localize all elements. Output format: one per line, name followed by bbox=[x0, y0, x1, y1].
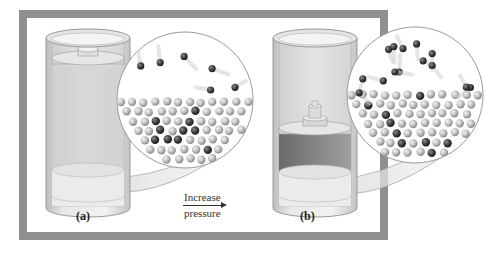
solvent-molecule bbox=[392, 91, 400, 99]
solvent-molecule bbox=[474, 91, 482, 99]
liquid-surface bbox=[279, 165, 351, 179]
solvent-molecule bbox=[151, 97, 159, 105]
solvent-molecule bbox=[421, 100, 429, 108]
solvent-molecule bbox=[439, 129, 447, 137]
solvent-molecule bbox=[403, 148, 411, 156]
cylinder-opening bbox=[279, 33, 351, 45]
solvent-molecule bbox=[237, 126, 245, 134]
solvent-molecule bbox=[134, 107, 142, 115]
solvent-molecule bbox=[139, 99, 147, 107]
gas-region bbox=[52, 66, 124, 170]
solvent-molecule bbox=[421, 119, 429, 127]
gas-molecule bbox=[420, 57, 427, 64]
weight-handle bbox=[312, 101, 318, 106]
solvent-molecule bbox=[221, 136, 229, 144]
solvent-molecule bbox=[370, 110, 378, 118]
solvent-molecule bbox=[381, 128, 389, 136]
dissolved-gas-molecule bbox=[191, 126, 199, 134]
solvent-molecule bbox=[432, 101, 440, 109]
solvent-molecule bbox=[438, 90, 446, 98]
solvent-molecule bbox=[409, 120, 417, 128]
solvent-molecule bbox=[163, 97, 171, 105]
solvent-molecule bbox=[162, 117, 170, 125]
solvent-molecule bbox=[192, 145, 200, 153]
solvent-molecule bbox=[215, 107, 223, 115]
solvent-molecule bbox=[220, 98, 228, 106]
increase-pressure-arrow-line bbox=[183, 205, 223, 206]
solvent-molecule bbox=[369, 129, 377, 137]
solvent-molecule bbox=[444, 101, 452, 109]
solvent-molecule bbox=[186, 98, 194, 106]
solvent-molecule bbox=[369, 90, 377, 98]
dissolved-gas-molecule bbox=[152, 117, 160, 125]
gas-molecule bbox=[137, 62, 144, 69]
gas-molecule bbox=[359, 75, 366, 82]
solvent-molecule bbox=[221, 117, 229, 125]
solvent-molecule bbox=[405, 110, 413, 118]
solvent-molecule bbox=[451, 128, 459, 136]
solvent-molecule bbox=[197, 137, 205, 145]
solvent-molecule bbox=[180, 145, 188, 153]
arrow-bottom-label: pressure bbox=[184, 207, 221, 219]
solvent-molecule bbox=[162, 155, 170, 163]
dissolved-gas-molecule bbox=[204, 146, 212, 154]
gas-molecule bbox=[380, 77, 387, 84]
solvent-molecule bbox=[347, 91, 355, 99]
panel-a-label: (a) bbox=[76, 209, 90, 224]
solvent-molecule bbox=[433, 119, 441, 127]
gas-molecule bbox=[207, 86, 214, 93]
solvent-molecule bbox=[141, 118, 149, 126]
panel-b-label: (b) bbox=[300, 209, 315, 224]
solvent-molecule bbox=[467, 120, 475, 128]
solvent-molecule bbox=[231, 117, 239, 125]
solvent-molecule bbox=[197, 156, 205, 164]
dissolved-gas-molecule bbox=[164, 135, 172, 143]
solvent-molecule bbox=[168, 146, 176, 154]
solvent-molecule bbox=[392, 148, 400, 156]
solvent-molecule bbox=[399, 99, 407, 107]
solvent-molecule bbox=[122, 107, 130, 115]
solvent-molecule bbox=[403, 91, 411, 99]
solvent-molecule bbox=[461, 130, 469, 138]
gas-molecule bbox=[181, 53, 188, 60]
gas-molecule bbox=[463, 84, 470, 91]
solvent-molecule bbox=[196, 99, 204, 107]
solvent-molecule bbox=[387, 101, 395, 109]
cylinder-opening bbox=[52, 33, 124, 45]
solvent-molecule bbox=[168, 127, 176, 135]
solvent-molecule bbox=[175, 155, 183, 163]
solvent-molecule bbox=[232, 97, 240, 105]
solvent-molecule bbox=[463, 110, 471, 118]
dissolved-gas-molecule bbox=[185, 118, 193, 126]
solvent-molecule bbox=[214, 145, 222, 153]
solvent-molecule bbox=[180, 107, 188, 115]
solvent-molecule bbox=[381, 91, 389, 99]
solvent-molecule bbox=[456, 119, 464, 127]
dissolved-gas-molecule bbox=[382, 111, 390, 119]
gas-molecule bbox=[429, 62, 436, 69]
solvent-molecule bbox=[226, 107, 234, 115]
gas-molecule bbox=[209, 65, 216, 72]
solvent-molecule bbox=[203, 126, 211, 134]
solvent-molecule bbox=[145, 127, 153, 135]
solvent-molecule bbox=[208, 98, 216, 106]
solvent-molecule bbox=[209, 135, 217, 143]
solvent-molecule bbox=[359, 109, 367, 117]
solvent-molecule bbox=[444, 118, 452, 126]
solvent-molecule bbox=[416, 129, 424, 137]
solvent-molecule bbox=[428, 109, 436, 117]
dissolved-gas-molecule bbox=[428, 149, 436, 157]
solvent-molecule bbox=[157, 146, 165, 154]
solvent-molecule bbox=[197, 117, 205, 125]
solvent-molecule bbox=[244, 98, 252, 106]
solvent-molecule bbox=[145, 108, 153, 116]
arrow-top-label: Increase bbox=[184, 191, 221, 203]
dissolved-gas-molecule bbox=[174, 135, 182, 143]
solvent-molecule bbox=[364, 120, 372, 128]
dissolved-gas-molecule bbox=[156, 126, 164, 134]
solvent-molecule bbox=[134, 127, 142, 135]
solvent-molecule bbox=[409, 139, 417, 147]
dissolved-gas-molecule bbox=[393, 129, 401, 137]
solvent-molecule bbox=[404, 129, 412, 137]
solvent-molecule bbox=[376, 137, 384, 145]
